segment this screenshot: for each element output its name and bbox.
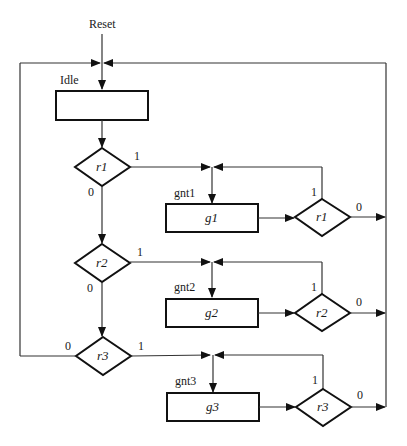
state-name-gnt3: gnt3 [175, 374, 196, 388]
r1-true-label: 1 [134, 149, 140, 163]
state-name-idle: Idle [60, 73, 79, 87]
decision-left-r2-label: r2 [96, 255, 108, 270]
state-name-gnt2: gnt2 [174, 280, 195, 294]
decision-left-r3-label: r3 [97, 348, 109, 363]
gnt2-output: g2 [205, 305, 219, 320]
gnt1-output: g1 [205, 210, 218, 225]
asm-chart: Reset Idle r1 1 0 gnt1 g1 r1 1 0 r2 1 0 … [0, 0, 407, 446]
right-r2-true-label: 1 [311, 280, 317, 294]
right-r1-false-label: 0 [356, 200, 362, 214]
right-r1-true-label: 1 [311, 185, 317, 199]
r2-false-label: 0 [87, 281, 93, 295]
r3-true-path [131, 355, 210, 356]
r1-false-label: 0 [88, 185, 94, 199]
decision-left-r1-label: r1 [96, 159, 108, 174]
r3-true-label: 1 [138, 339, 144, 353]
state-box-idle [56, 91, 148, 120]
gnt3-output: g3 [206, 399, 220, 414]
state-name-gnt1: gnt1 [174, 186, 195, 200]
r2-true-label: 1 [137, 245, 143, 259]
decision-right-r1-label: r1 [316, 209, 328, 224]
right-r2-false-label: 0 [356, 295, 362, 309]
right-r3-true-label: 1 [312, 373, 318, 387]
right-r3-false-label: 0 [357, 388, 363, 402]
decision-right-r2-label: r2 [316, 305, 328, 320]
r3-false-label: 0 [65, 339, 71, 353]
reset-label: Reset [89, 17, 116, 31]
decision-right-r3-label: r3 [317, 399, 329, 414]
